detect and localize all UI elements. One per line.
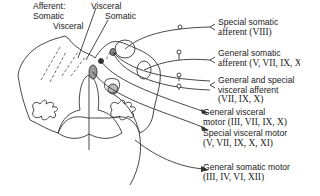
label-general-somatic-afferent: General somatic afferent (V, VII, IX, X) [218, 49, 300, 68]
olive-left [33, 100, 58, 120]
label-special-visceral-motor: Special visceral motor (V, VII, IX, X, X… [203, 129, 287, 148]
pyramid-left [58, 75, 89, 138]
somatic-right-label: Somatic [105, 12, 136, 22]
label-visceral-afferent: General and special visceral afferent (V… [218, 76, 294, 105]
label-special-somatic-afferent: Special somatic afferent (VIII) [218, 18, 278, 37]
label-general-somatic-motor: General somatic motor (III, IV, VI, XII) [203, 163, 290, 182]
label-general-visceral-motor: General visceral motor (III, VII, IX, X) [203, 108, 287, 127]
visceral-left-label: Visceral [53, 22, 83, 32]
